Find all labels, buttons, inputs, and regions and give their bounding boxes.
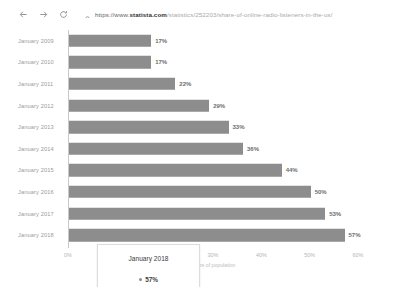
bar-value-label: 17%	[155, 59, 167, 65]
url-domain: statista.com	[130, 11, 167, 18]
x-axis-tick-label: 40%	[256, 252, 267, 258]
tooltip-value: 57%	[145, 276, 158, 283]
bar[interactable]	[69, 35, 151, 48]
bar[interactable]	[69, 99, 209, 112]
url-scheme: https://www.	[95, 11, 130, 18]
bar[interactable]	[69, 56, 151, 69]
category-label: January 2017	[18, 211, 65, 217]
bar-value-label: 50%	[315, 189, 327, 195]
bar[interactable]	[69, 143, 243, 156]
bar-row[interactable]: January 201333%	[0, 116, 401, 138]
tooltip-title: January 2018	[98, 255, 199, 262]
bar-value-label: 36%	[247, 146, 259, 152]
forward-button[interactable]	[36, 7, 51, 22]
reload-icon	[59, 10, 68, 19]
x-axis-tick-label: 50%	[304, 252, 315, 258]
bar-value-label: 33%	[233, 124, 245, 130]
plot-area: January 200917%January 201017%January 20…	[0, 28, 401, 250]
address-bar[interactable]: https://www.statista.com/statistics/2522…	[84, 10, 401, 18]
bar[interactable]	[69, 121, 229, 134]
bar[interactable]	[69, 207, 325, 220]
statista-bar-chart: January 200917%January 201017%January 20…	[0, 28, 401, 287]
bar-row[interactable]: January 201017%	[0, 52, 401, 74]
category-label: January 2012	[18, 103, 65, 109]
browser-window: https://www.statista.com/statistics/2522…	[0, 0, 401, 287]
bar-value-label: 53%	[329, 211, 341, 217]
series-dot-icon	[139, 278, 142, 281]
x-axis-tick-label: 60%	[353, 252, 364, 258]
category-label: January 2011	[18, 81, 65, 87]
category-label: January 2016	[18, 189, 65, 195]
lock-icon	[84, 10, 91, 18]
category-label: January 2014	[18, 146, 65, 152]
reload-button[interactable]	[56, 7, 71, 22]
back-arrow-icon	[19, 10, 28, 19]
category-label: January 2010	[18, 59, 65, 65]
bar-value-label: 29%	[213, 103, 225, 109]
bar-value-label: 17%	[155, 38, 167, 44]
bar[interactable]	[69, 164, 282, 177]
bar[interactable]	[69, 186, 311, 199]
x-axis-tick-label: 30%	[208, 252, 219, 258]
bar[interactable]	[69, 78, 175, 91]
bar-row[interactable]: January 201436%	[0, 138, 401, 160]
category-label: January 2009	[18, 38, 65, 44]
bar-row[interactable]: January 201650%	[0, 181, 401, 203]
bar-value-label: 44%	[286, 167, 298, 173]
bar-value-label: 22%	[179, 81, 191, 87]
category-label: January 2013	[18, 124, 65, 130]
bar-row[interactable]: January 201122%	[0, 73, 401, 95]
bar[interactable]	[69, 229, 345, 242]
chart-tooltip: January 2018 57%	[97, 244, 200, 287]
x-axis: Share of population 0%10%20%30%40%50%60%	[0, 250, 401, 287]
bar-value-label: 57%	[349, 232, 361, 238]
category-label: January 2018	[18, 232, 65, 238]
bar-row[interactable]: January 200917%	[0, 30, 401, 52]
category-label: January 2015	[18, 167, 65, 173]
x-axis-tick-label: 0%	[64, 252, 72, 258]
back-button[interactable]	[16, 7, 31, 22]
tooltip-value-row: 57%	[98, 276, 199, 283]
url-path: /statistics/252203/share-of-online-radio…	[167, 11, 333, 18]
forward-arrow-icon	[39, 10, 48, 19]
bar-row[interactable]: January 201544%	[0, 160, 401, 182]
address-bar-url: https://www.statista.com/statistics/2522…	[95, 11, 333, 18]
bar-row[interactable]: January 201753%	[0, 203, 401, 225]
browser-toolbar: https://www.statista.com/statistics/2522…	[0, 0, 401, 28]
bar-row[interactable]: January 201857%	[0, 224, 401, 246]
bar-rows: January 200917%January 201017%January 20…	[0, 30, 401, 246]
bar-row[interactable]: January 201229%	[0, 95, 401, 117]
